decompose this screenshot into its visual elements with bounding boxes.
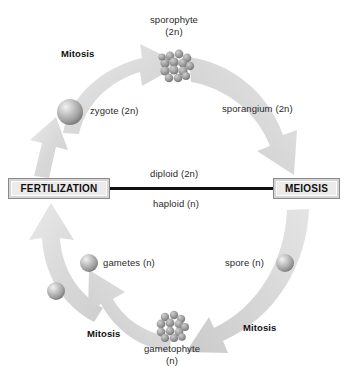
life-cycle-diagram: FERTILIZATION MEIOSIS diploid (2n) haplo…	[0, 0, 348, 374]
sporophyte-label-line2: (2n)	[150, 26, 198, 38]
gametes-label: gametes (n)	[103, 257, 155, 269]
spore-sphere	[276, 254, 294, 272]
sporophyte-label: sporophyte (2n)	[150, 14, 198, 37]
diploid-haploid-divider-line	[110, 187, 273, 190]
gamete-sphere-upper	[80, 254, 98, 272]
mitosis-label-bottom-right: Mitosis	[243, 322, 276, 334]
sporangium-label: sporangium (2n)	[222, 103, 293, 115]
sporophyte-label-line1: sporophyte	[150, 14, 198, 26]
haploid-label: haploid (n)	[153, 198, 199, 210]
zygote-label: zygote (2n)	[90, 105, 139, 117]
gametophyte-label: gametophyte (n)	[138, 343, 206, 366]
gametophyte-label-line1: gametophyte	[138, 343, 206, 355]
meiosis-box-label: MEIOSIS	[285, 183, 328, 194]
spore-label: spore (n)	[225, 257, 264, 269]
zygote-sphere	[57, 99, 83, 125]
arrow-fertilization-to-zygote	[30, 117, 68, 178]
mitosis-label-bottom-left: Mitosis	[87, 328, 120, 340]
diploid-label: diploid (2n)	[150, 168, 198, 180]
mitosis-label-top-left: Mitosis	[61, 48, 94, 60]
fertilization-box[interactable]: FERTILIZATION	[8, 178, 110, 199]
sporophyte-cluster	[158, 50, 194, 83]
meiosis-arrow-sporophyte-to-meiosis	[189, 57, 297, 175]
gametophyte-label-line2: (n)	[138, 355, 206, 367]
fertilization-box-label: FERTILIZATION	[21, 183, 98, 194]
meiosis-box[interactable]: MEIOSIS	[273, 178, 340, 199]
gamete-sphere-lower	[47, 282, 65, 300]
gametophyte-cluster	[157, 311, 189, 342]
